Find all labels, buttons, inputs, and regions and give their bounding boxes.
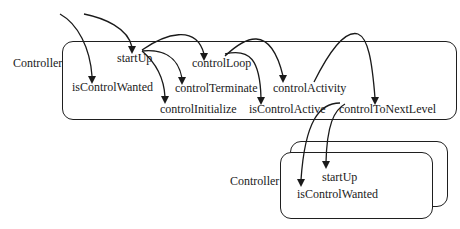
child-controller-label: Controller	[230, 175, 279, 187]
child-method-startup: startUp	[322, 171, 357, 183]
edge-external-iscontrolwanted	[60, 14, 92, 76]
edge-external-startup	[84, 14, 132, 47]
method-controlinitialize: controlInitialize	[160, 103, 237, 115]
method-iscontrolactive: isControlActive	[249, 103, 326, 115]
child-method-iscontrolwanted: isControlWanted	[297, 188, 378, 200]
method-controltonextlevel: controlToNextLevel	[339, 103, 436, 115]
main-controller-label: Controller	[13, 57, 62, 69]
method-controlloop: controlLoop	[192, 57, 251, 69]
method-iscontrolwanted: isControlWanted	[72, 81, 153, 93]
method-startup: startUp	[117, 52, 152, 64]
arrowhead-child-startup	[322, 161, 330, 169]
arrowhead-child-iscontrolwanted	[297, 179, 305, 187]
method-controlactivity: controlActivity	[273, 82, 346, 94]
method-controlterminate: controlTerminate	[175, 82, 257, 94]
